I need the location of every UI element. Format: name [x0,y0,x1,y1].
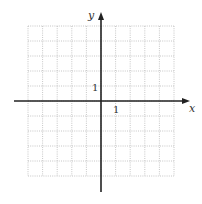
y-axis-arrowhead-icon [98,12,104,20]
x-tick-label-1: 1 [113,104,119,115]
coordinate-plane: x y 1 1 [0,0,202,204]
x-axis-label: x [189,102,196,115]
y-axis-label: y [87,9,95,22]
y-tick-label-1: 1 [92,82,98,93]
